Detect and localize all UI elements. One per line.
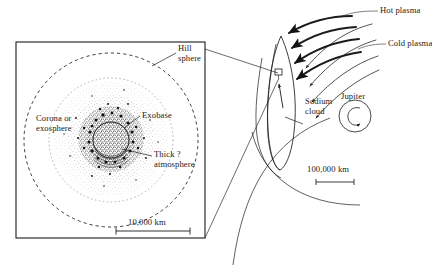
io-orbit-arc [233, 118, 330, 265]
label-corona-exosphere: Corona or exosphere [36, 114, 72, 133]
io-marker-box [275, 69, 282, 75]
label-sodium-cloud: Sodium cloud [305, 97, 332, 116]
jupiter-spiral [348, 108, 360, 126]
label-thick-atmosphere: Thick ? atmosphere [154, 150, 195, 169]
label-hot-plasma: Hot plasma [380, 6, 420, 16]
scale-bar-10000km [116, 228, 190, 235]
corona-stipple-cloud [54, 82, 168, 196]
hill-sphere-leader [152, 53, 176, 66]
right-panel-group [233, 11, 386, 265]
sodium-cloud-inner-arc [267, 44, 280, 170]
sodium-cloud-leader [285, 117, 303, 124]
label-scale-10000km: 10,000 km [128, 218, 166, 228]
label-jupiter: Jupiter [341, 92, 365, 102]
scale-bar-100000km [316, 179, 354, 185]
callout-expansion-lines [205, 49, 278, 238]
sodium-cloud-tail [256, 58, 281, 178]
io-motion-arrow [279, 84, 283, 108]
label-exobase: Exobase [142, 111, 172, 121]
label-cold-plasma: Cold plasma [388, 39, 432, 49]
sodium-cloud-outline [268, 36, 296, 170]
left-panel-group [16, 42, 205, 238]
label-hill-sphere: Hill sphere [178, 44, 201, 63]
label-scale-100000km: 100,000 km [307, 165, 349, 175]
jupiter-disk [339, 100, 371, 132]
